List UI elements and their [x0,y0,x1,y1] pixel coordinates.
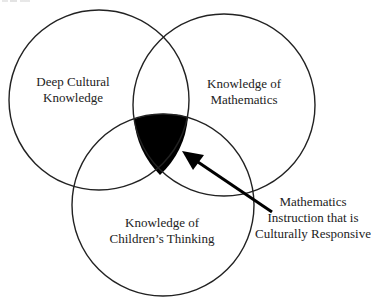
label-knowledge-of-childrens-thinking: Knowledge of Children’s Thinking [110,215,215,247]
label-line: Knowledge of [207,76,281,92]
label-line: Deep Cultural [36,74,109,90]
label-line: Culturally Responsive [255,226,371,242]
label-knowledge-of-mathematics: Knowledge of Mathematics [207,76,281,108]
label-line: Mathematics [207,92,281,108]
label-line: Mathematics [255,194,371,210]
label-deep-cultural-knowledge: Deep Cultural Knowledge [36,74,109,106]
label-line: Knowledge of [110,215,215,231]
callout-label-culturally-responsive-instruction: Mathematics Instruction that is Cultural… [255,194,371,242]
label-line: Children’s Thinking [110,231,215,247]
label-line: Instruction that is [255,210,371,226]
callout-arrow-head [182,151,204,170]
label-line: Knowledge [36,90,109,106]
